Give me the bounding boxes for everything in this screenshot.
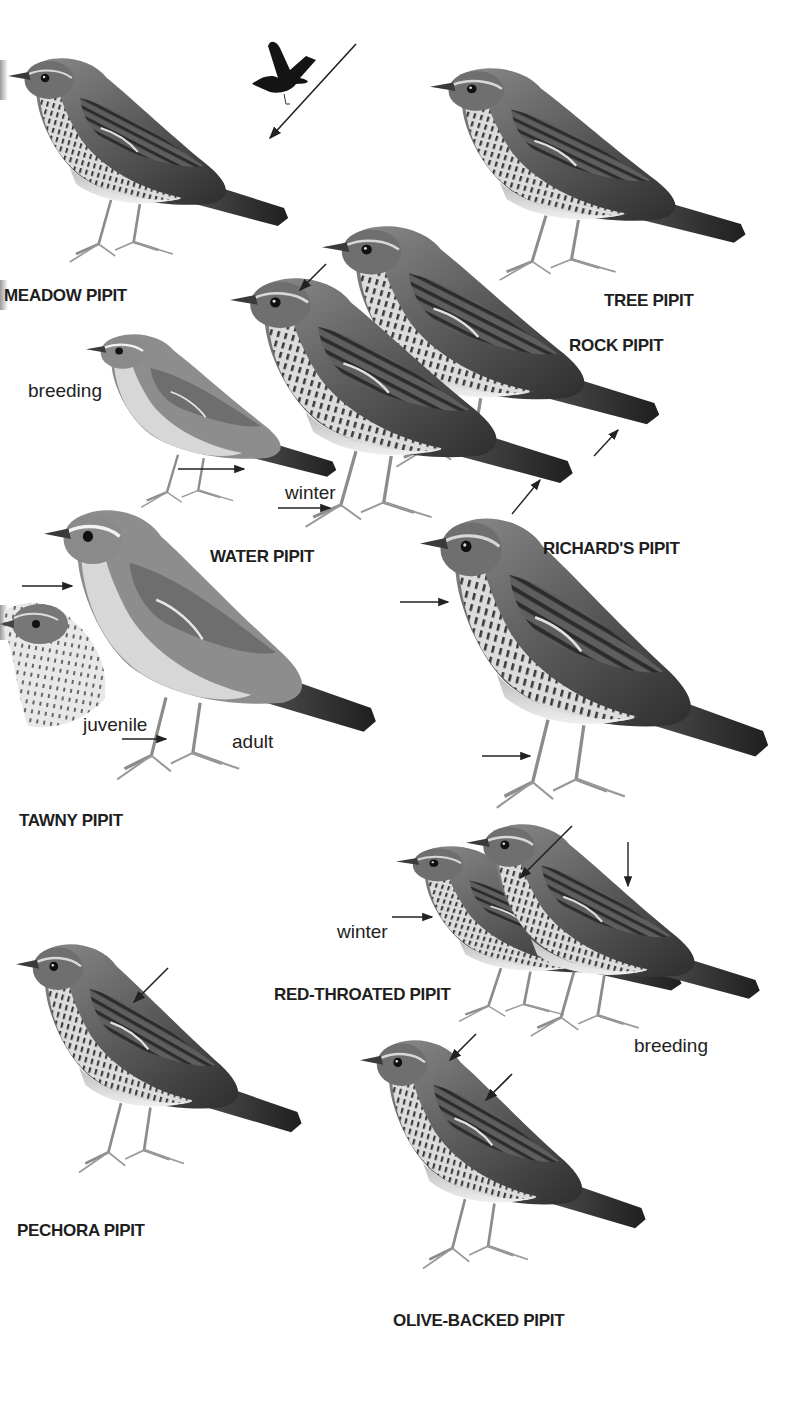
tawny-pipit-juvenile-illustration [0, 603, 105, 727]
label-water-pipit: WATER PIPIT [210, 547, 314, 567]
label-pechora-pipit: PECHORA PIPIT [17, 1221, 145, 1241]
olive-backed-pipit-illustration [360, 1040, 646, 1268]
pechora-pipit-illustration [16, 944, 302, 1172]
pointer-arrow [486, 1074, 512, 1100]
richards-pipit-illustration [420, 518, 768, 807]
pointer-arrow [594, 430, 618, 456]
field-guide-plate: MEADOW PIPIT TREE PIPIT ROCK PIPIT WATER… [0, 0, 805, 1401]
label-red-throated-pipit: RED-THROATED PIPIT [274, 985, 451, 1005]
annotation-water-breeding: breeding [28, 380, 102, 402]
bird-illustrations [0, 0, 805, 1401]
annotation-water-winter: winter [285, 482, 336, 504]
annotation-tawny-adult: adult [232, 731, 273, 753]
pointer-arrow [512, 480, 540, 514]
pointer-arrow [134, 968, 168, 1002]
pointer-arrow [450, 1034, 476, 1060]
flying-pipit-silhouette [252, 42, 316, 104]
label-richards-pipit: RICHARD'S PIPIT [543, 539, 680, 559]
label-rock-pipit: ROCK PIPIT [569, 336, 663, 356]
label-tree-pipit: TREE PIPIT [604, 291, 694, 311]
meadow-pipit-illustration [8, 58, 288, 262]
annotation-tawny-juvenile: juvenile [83, 714, 147, 736]
annotation-red-throated-breeding: breeding [634, 1035, 708, 1057]
label-tawny-pipit: TAWNY PIPIT [19, 811, 123, 831]
label-meadow-pipit: MEADOW PIPIT [4, 286, 127, 306]
tree-pipit-illustration [430, 68, 746, 280]
annotation-red-throated-winter: winter [337, 921, 388, 943]
label-olive-backed-pipit: OLIVE-BACKED PIPIT [393, 1311, 564, 1331]
